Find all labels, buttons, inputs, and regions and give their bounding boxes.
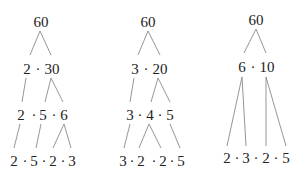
- factor-tree-diagram: 60 2 · 30 2 · 5 · 6 2 · 5 · 2 · 3 60 3 ·…: [0, 0, 307, 176]
- edge: [40, 31, 51, 55]
- level-2-node: 3: [126, 107, 134, 123]
- dot: ·: [254, 150, 259, 166]
- dot: ·: [32, 107, 37, 123]
- edge: [149, 124, 161, 148]
- dot: ·: [274, 150, 279, 166]
- factor-trees-svg: 60 2 · 30 2 · 5 · 6 2 · 5 · 2 · 3 60 3 ·…: [0, 0, 307, 176]
- leaf-node: 5: [30, 153, 38, 169]
- edge: [53, 124, 64, 148]
- edge: [170, 124, 180, 148]
- level-2-node: 2: [17, 107, 25, 123]
- edge: [242, 77, 246, 146]
- tree-3: 60 6 · 10 2 · 3 · 2 · 5: [223, 12, 290, 166]
- dot: ·: [36, 61, 41, 77]
- edge: [138, 31, 148, 55]
- dot: ·: [52, 107, 57, 123]
- edge: [22, 78, 26, 102]
- level-1-node: 10: [260, 59, 275, 75]
- leaf-node: 5: [282, 150, 290, 166]
- leaf-node: 2: [49, 153, 57, 169]
- root-node: 60: [249, 12, 264, 28]
- level-1-node: 2: [23, 61, 31, 77]
- edge: [158, 78, 170, 102]
- dot: ·: [42, 153, 47, 169]
- leaf-node: 5: [177, 153, 185, 169]
- dot: ·: [144, 61, 149, 77]
- edge: [45, 78, 51, 102]
- dot: ·: [61, 153, 66, 169]
- level-1-node: 20: [153, 61, 168, 77]
- edge: [151, 78, 158, 102]
- dot: ·: [152, 153, 157, 169]
- edge: [14, 124, 20, 148]
- tree-2: 60 3 · 20 3 · 4 · 5 3 · 2 · 2 · 5: [119, 14, 185, 169]
- leaf-node: 2: [10, 153, 18, 169]
- edge: [124, 124, 130, 148]
- dot: ·: [158, 107, 163, 123]
- edge: [36, 124, 41, 148]
- edge: [266, 77, 286, 146]
- leaf-node: 3: [242, 150, 250, 166]
- edge: [139, 124, 149, 148]
- edge: [64, 124, 71, 148]
- edge: [244, 29, 256, 53]
- level-2-node: 4: [146, 107, 154, 123]
- dot: ·: [130, 153, 135, 169]
- dot: ·: [251, 59, 256, 75]
- edge: [130, 78, 134, 102]
- dot: ·: [235, 150, 240, 166]
- root-node: 60: [141, 14, 156, 30]
- dot: ·: [23, 153, 28, 169]
- edge: [227, 77, 242, 146]
- root-node: 60: [34, 14, 49, 30]
- level-2-node: 5: [39, 107, 47, 123]
- dot: ·: [138, 107, 143, 123]
- leaf-node: 2: [137, 153, 145, 169]
- dot: ·: [170, 153, 175, 169]
- leaf-node: 2: [223, 150, 231, 166]
- leaf-node: 3: [119, 153, 127, 169]
- edge: [256, 29, 266, 53]
- leaf-node: 2: [262, 150, 270, 166]
- edge: [51, 78, 63, 102]
- tree-1-edges: [14, 31, 71, 148]
- tree-3-edges: [227, 29, 286, 146]
- level-1-node: 6: [238, 59, 246, 75]
- leaf-node: 3: [68, 153, 76, 169]
- level-2-node: 6: [60, 107, 68, 123]
- edge: [30, 31, 40, 55]
- edge: [148, 31, 160, 55]
- level-1-node: 30: [45, 61, 60, 77]
- tree-2-edges: [124, 31, 180, 148]
- level-1-node: 3: [131, 61, 139, 77]
- level-2-node: 5: [166, 107, 174, 123]
- leaf-node: 2: [159, 153, 167, 169]
